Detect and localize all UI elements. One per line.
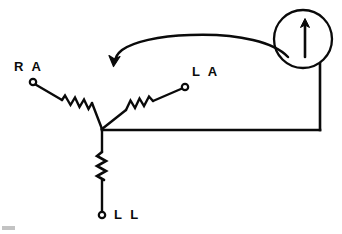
left-arm-resistor [126, 97, 153, 111]
left-arm-branch [102, 84, 188, 129]
scan-smudge-artifact [2, 226, 15, 230]
circuit-schematic-drawing [0, 0, 342, 234]
circuit-diagram-canvas: R A L A L L [0, 0, 342, 234]
left-leg-terminal[interactable] [99, 212, 105, 218]
pointer-arrow-curve [115, 35, 288, 62]
galvanometer-body-circle [274, 10, 332, 68]
left-arm-junction-wire [102, 110, 126, 129]
left-leg-branch [97, 129, 106, 218]
left-leg-label: L L [114, 208, 141, 221]
right-arm-branch [30, 79, 102, 129]
right-arm-junction-wire [92, 103, 102, 129]
left-arm-label: L A [192, 65, 220, 78]
right-arm-label: R A [14, 60, 43, 73]
left-arm-lead-wire [153, 89, 182, 102]
galvanometer[interactable] [274, 10, 332, 68]
right-arm-lead-wire [36, 85, 63, 101]
left-leg-resistor [97, 152, 106, 180]
pointer-arrowhead-icon [109, 56, 120, 67]
right-arm-resistor [62, 96, 92, 110]
pointer-arrow [109, 35, 288, 67]
